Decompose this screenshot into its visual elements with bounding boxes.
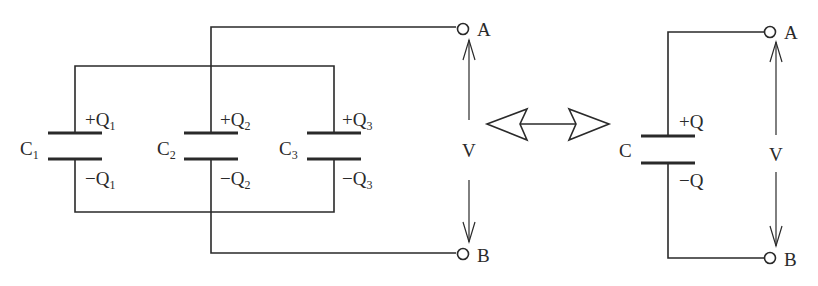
terminal-b-label-right: B xyxy=(784,249,797,270)
terminal-a-right xyxy=(765,27,776,38)
terminal-a-label-right: A xyxy=(784,22,798,43)
terminal-b-right xyxy=(765,253,776,264)
parallel-capacitor-diagram: C1 +Q1 −Q1 C2 +Q2 −Q2 C3 +Q3 −Q3 A B V C… xyxy=(0,0,818,286)
right-capacitor-plates xyxy=(641,136,695,163)
c1-label: C1 xyxy=(20,138,39,162)
equivalence-double-arrow-icon xyxy=(487,109,609,140)
c1-plus-charge: +Q1 xyxy=(85,109,115,133)
left-capacitor-plates xyxy=(48,133,361,159)
c-plus-charge: +Q xyxy=(679,111,704,132)
c2-plus-charge: +Q2 xyxy=(220,109,250,133)
c3-minus-charge: −Q3 xyxy=(342,168,372,192)
right-circuit-wires xyxy=(668,32,764,258)
terminal-b-label-left: B xyxy=(477,245,490,266)
left-circuit-wires xyxy=(75,27,456,253)
voltage-label-left: V xyxy=(462,140,476,161)
c2-minus-charge: −Q2 xyxy=(220,168,250,192)
c3-label: C3 xyxy=(279,138,298,162)
terminal-a-left xyxy=(458,24,469,35)
terminal-a-label-left: A xyxy=(477,19,491,40)
voltage-label-right: V xyxy=(769,144,783,165)
terminal-b-left xyxy=(458,249,469,260)
c2-label: C2 xyxy=(157,138,176,162)
c1-minus-charge: −Q1 xyxy=(85,168,115,192)
c-minus-charge: −Q xyxy=(679,170,704,191)
c3-plus-charge: +Q3 xyxy=(342,109,372,133)
c-label: C xyxy=(619,140,632,161)
